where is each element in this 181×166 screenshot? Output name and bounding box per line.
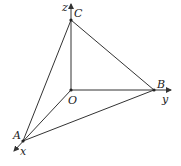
point-O-label: O (68, 94, 77, 107)
point-A (21, 139, 24, 142)
point-C (69, 18, 72, 21)
edge-AB (23, 90, 154, 141)
x-axis-label: x (20, 145, 27, 158)
z-axis-label: z (61, 1, 68, 14)
point-B-label: B (156, 78, 165, 91)
point-O (69, 88, 72, 91)
y-axis-label: y (161, 93, 169, 106)
point-A-label: A (12, 129, 21, 142)
point-B (152, 88, 155, 91)
edge-CA (23, 20, 71, 141)
point-C-label: C (74, 7, 83, 20)
edge-BC (71, 20, 154, 90)
tetrahedron-diagram: z y x C B O A (0, 0, 181, 166)
